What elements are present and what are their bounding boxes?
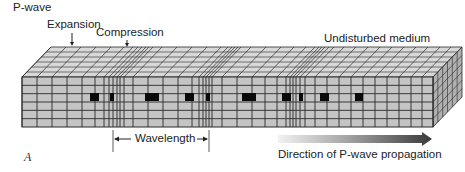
panel-label: A [24, 151, 31, 163]
wavelength-label: Wavelength [133, 133, 197, 145]
undisturbed-medium-label: Undisturbed medium [324, 33, 430, 45]
propagation-arrow-icon [278, 132, 432, 146]
expansion-label: Expansion [47, 19, 101, 31]
block-front-face [22, 77, 433, 127]
figure-title: P-wave [13, 2, 51, 14]
propagation-direction-label: Direction of P-wave propagation [278, 149, 442, 161]
compression-label: Compression [96, 27, 164, 39]
block-top-face [22, 47, 462, 77]
